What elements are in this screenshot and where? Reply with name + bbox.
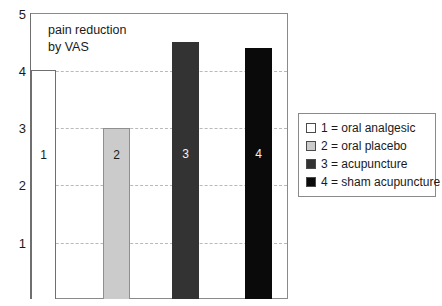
y-axis-ticks: 5 4 3 2 1 (0, 0, 26, 306)
y-tick-1: 1 (2, 237, 26, 250)
chart-annotation: pain reduction by VAS (48, 22, 127, 56)
bar-1-oral-analgesic: 1 (31, 70, 56, 299)
legend-swatch-2-icon (306, 141, 316, 151)
bar-label-1: 1 (32, 149, 55, 161)
legend-swatch-3-icon (306, 159, 316, 169)
legend-label-4: 4 = sham acupuncture (321, 176, 440, 188)
bar-3-acupuncture: 3 (172, 42, 199, 299)
legend-item-3: 3 = acupuncture (306, 155, 429, 173)
legend-swatch-4-icon (306, 177, 316, 187)
bar-2-oral-placebo: 2 (103, 128, 130, 299)
legend-swatch-1-icon (306, 123, 316, 133)
bar-chart-figure: 5 4 3 2 1 1 2 3 4 pain reduction by VAS … (0, 0, 442, 306)
y-tick-5: 5 (2, 8, 26, 21)
legend-item-1: 1 = oral analgesic (306, 119, 429, 137)
bar-label-2: 2 (104, 149, 129, 161)
legend-label-1: 1 = oral analgesic (321, 122, 415, 134)
legend-label-3: 3 = acupuncture (321, 158, 407, 170)
bar-label-3: 3 (172, 148, 199, 160)
legend: 1 = oral analgesic 2 = oral placebo 3 = … (298, 113, 436, 197)
y-tick-2: 2 (2, 179, 26, 192)
bar-4-sham-acupuncture: 4 (245, 48, 272, 299)
legend-item-2: 2 = oral placebo (306, 137, 429, 155)
bar-label-4: 4 (245, 148, 272, 160)
y-tick-3: 3 (2, 122, 26, 135)
legend-item-4: 4 = sham acupuncture (306, 173, 429, 191)
y-tick-4: 4 (2, 65, 26, 78)
legend-label-2: 2 = oral placebo (321, 140, 407, 152)
